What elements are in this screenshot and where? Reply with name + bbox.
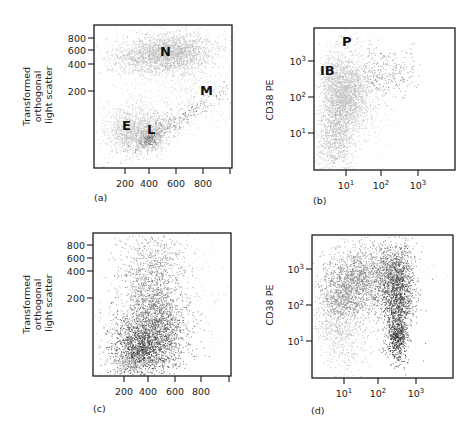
scatter-point <box>330 143 331 144</box>
scatter-point <box>192 80 193 81</box>
scatter-point <box>352 130 353 131</box>
scatter-point <box>334 135 335 136</box>
scatter-point <box>132 58 133 59</box>
scatter-point <box>383 64 384 65</box>
scatter-point <box>179 46 180 47</box>
scatter-point <box>180 41 181 42</box>
scatter-point <box>203 57 204 58</box>
scatter-point <box>163 258 164 259</box>
scatter-point <box>350 285 351 286</box>
scatter-point <box>339 103 340 104</box>
scatter-point <box>144 47 145 48</box>
scatter-point <box>195 42 196 43</box>
scatter-point <box>152 372 153 373</box>
scatter-point <box>166 330 167 331</box>
scatter-point <box>361 281 362 282</box>
scatter-point <box>399 319 400 320</box>
scatter-point <box>348 103 349 104</box>
scatter-point <box>394 348 395 349</box>
scatter-point <box>178 283 179 284</box>
scatter-point <box>201 320 202 321</box>
scatter-point <box>321 131 322 132</box>
scatter-point <box>146 350 147 351</box>
scatter-point <box>398 349 399 350</box>
scatter-point <box>132 366 133 367</box>
scatter-point <box>339 116 340 117</box>
scatter-point <box>408 303 409 304</box>
scatter-point <box>148 360 149 361</box>
scatter-point <box>346 143 347 144</box>
scatter-point <box>342 91 343 92</box>
scatter-point <box>322 116 323 117</box>
scatter-point <box>164 132 165 133</box>
scatter-point <box>347 78 348 79</box>
scatter-point <box>190 115 191 116</box>
scatter-point <box>373 257 374 258</box>
scatter-point <box>166 40 167 41</box>
scatter-point <box>408 302 409 303</box>
scatter-point <box>134 56 135 57</box>
scatter-point <box>181 314 182 315</box>
scatter-point <box>359 149 360 150</box>
scatter-point <box>152 56 153 57</box>
scatter-point <box>334 120 335 121</box>
scatter-point <box>359 283 360 284</box>
scatter-point <box>340 345 341 346</box>
scatter-point <box>143 59 144 60</box>
scatter-point <box>134 360 135 361</box>
scatter-point <box>219 47 220 48</box>
scatter-point <box>351 274 352 275</box>
scatter-point <box>146 337 147 338</box>
scatter-point <box>132 363 133 364</box>
scatter-point <box>133 125 134 126</box>
scatter-point <box>369 277 370 278</box>
scatter-point <box>145 47 146 48</box>
scatter-point <box>394 357 395 358</box>
scatter-point <box>358 305 359 306</box>
scatter-point <box>321 327 322 328</box>
scatter-point <box>128 329 129 330</box>
scatter-point <box>332 278 333 279</box>
scatter-point <box>388 247 389 248</box>
scatter-point <box>382 288 383 289</box>
scatter-point <box>347 116 348 117</box>
scatter-point <box>134 62 135 63</box>
scatter-point <box>173 63 174 64</box>
scatter-point <box>169 339 170 340</box>
scatter-point <box>149 50 150 51</box>
scatter-point <box>400 311 401 312</box>
scatter-point <box>142 48 143 49</box>
scatter-point <box>340 280 341 281</box>
scatter-point <box>333 108 334 109</box>
scatter-point <box>180 81 181 82</box>
scatter-point <box>107 37 108 38</box>
scatter-point <box>363 54 364 55</box>
scatter-point <box>137 299 138 300</box>
scatter-point <box>344 360 345 361</box>
scatter-point <box>136 355 137 356</box>
scatter-point <box>120 76 121 77</box>
scatter-point <box>354 275 355 276</box>
scatter-point <box>402 256 403 257</box>
scatter-point <box>187 121 188 122</box>
scatter-point <box>150 63 151 64</box>
scatter-point <box>342 329 343 330</box>
scatter-point <box>140 367 141 368</box>
scatter-point <box>369 254 370 255</box>
scatter-point <box>132 365 133 366</box>
scatter-point <box>341 108 342 109</box>
scatter-point <box>361 91 362 92</box>
scatter-point <box>171 356 172 357</box>
scatter-point <box>172 50 173 51</box>
scatter-point <box>153 46 154 47</box>
scatter-point <box>336 44 337 45</box>
scatter-point <box>173 329 174 330</box>
scatter-point <box>136 48 137 49</box>
scatter-point <box>396 266 397 267</box>
scatter-point <box>343 85 344 86</box>
scatter-point <box>172 356 173 357</box>
scatter-point <box>344 304 345 305</box>
scatter-point <box>174 67 175 68</box>
scatter-point <box>361 277 362 278</box>
scatter-point <box>135 332 136 333</box>
